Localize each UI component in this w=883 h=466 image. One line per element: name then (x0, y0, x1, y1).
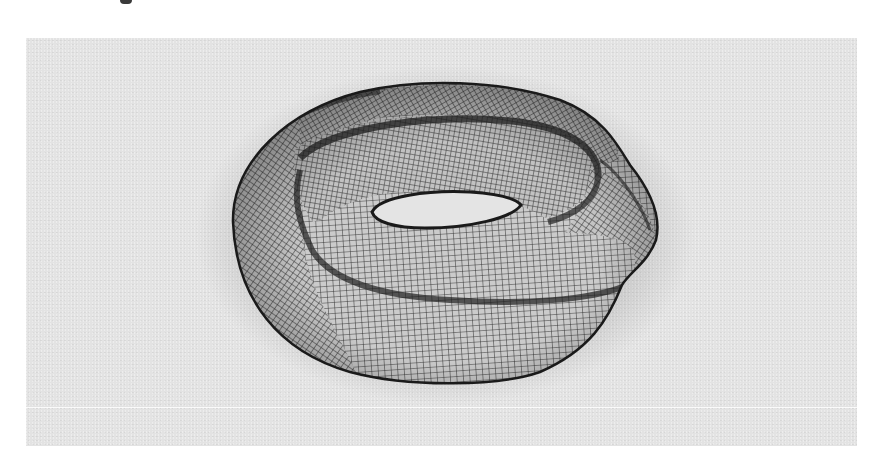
twisted-torus-wireframe (26, 38, 857, 446)
figure-panel (26, 38, 857, 446)
cropped-top-fragment (120, 0, 132, 4)
scan-seam-line (26, 407, 857, 408)
